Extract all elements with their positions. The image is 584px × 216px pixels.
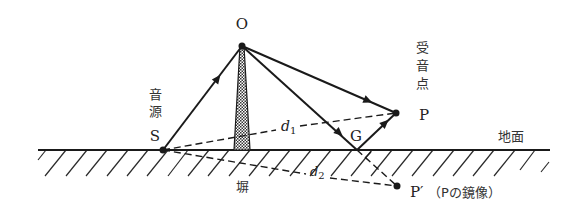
path-S-to-O [163,46,242,150]
label-receiver-3: 点 [416,76,429,91]
point-S [160,147,167,154]
label-P-prime: P′ [410,183,424,201]
label-d1: d1 [281,118,296,136]
image-path-d2-left [163,150,306,174]
label-P-prime-caption: （Pの鏡像） [428,185,501,200]
label-receiver-2: 音 [416,58,429,73]
label-ground: 地面 [498,129,524,144]
point-P [393,110,400,117]
label-G: G [350,127,362,145]
direct-path-d1-left [163,130,276,150]
label-S: S [150,127,160,145]
path-O-to-P [242,46,396,113]
label-P: P [419,106,429,124]
barrier-diffraction-diagram: O 音 源 S 受 音 点 P G d1 d2 塀 地面 P′ （Pの鏡像） [0,0,584,216]
path-G-to-P [357,113,396,150]
label-receiver-1: 受 [416,40,429,55]
image-path-d2-right [330,178,397,186]
arrow-O-P-icon [362,95,373,106]
label-source-1: 音 [149,87,162,102]
label-O: O [236,15,248,33]
label-source-2: 源 [149,104,162,119]
perpendicular-mark [365,152,371,158]
point-P-prime [394,183,401,190]
label-barrier: 塀 [236,179,249,194]
barrier-wall [234,46,250,150]
reflection-image-line [357,150,397,186]
point-O [239,43,246,50]
label-d2: d2 [310,164,325,181]
